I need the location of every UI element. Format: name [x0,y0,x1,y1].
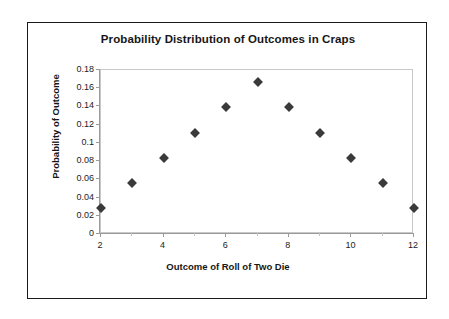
x-tick-label: 8 [273,240,303,250]
data-point-marker [253,77,263,87]
data-point-marker [409,204,419,214]
y-tick-label: 0.18 [50,64,94,74]
x-minor-tick-mark [319,233,320,236]
data-point-marker [159,153,169,163]
x-tick-mark [163,233,164,237]
x-minor-tick-mark [131,233,132,236]
data-point-marker [315,128,325,138]
y-tick-label: 0.04 [50,192,94,202]
x-tick-label: 6 [210,240,240,250]
data-point-marker [284,102,294,112]
data-point-marker [127,178,137,188]
y-tick-label: 0.08 [50,155,94,165]
chart-title: Probability Distribution of Outcomes in … [28,33,428,45]
x-tick-label: 2 [85,240,115,250]
x-tick-mark [225,233,226,237]
x-axis-title: Outcome of Roll of Two Die [28,261,428,272]
x-minor-tick-mark [257,233,258,236]
y-tick-label: 0.12 [50,119,94,129]
x-minor-tick-mark [382,233,383,236]
x-tick-label: 4 [148,240,178,250]
x-tick-label: 10 [335,240,365,250]
x-tick-mark [413,233,414,237]
chart-outer-frame: Probability Distribution of Outcomes in … [27,22,427,299]
y-tick-label: 0.1 [50,137,94,147]
data-point-marker [96,204,106,214]
y-tick-label: 0.02 [50,210,94,220]
x-tick-mark [350,233,351,237]
y-tick-label: 0.06 [50,173,94,183]
data-point-marker [346,153,356,163]
data-point-marker [190,128,200,138]
x-tick-mark [100,233,101,237]
data-point-marker [378,178,388,188]
y-tick-label: 0.14 [50,100,94,110]
x-minor-tick-mark [194,233,195,236]
chart-figure: Probability Distribution of Outcomes in … [0,0,449,319]
x-tick-mark [288,233,289,237]
y-tick-label: 0.16 [50,82,94,92]
x-tick-label: 12 [398,240,428,250]
plot-area [100,69,413,233]
data-point-marker [221,102,231,112]
y-tick-label: 0 [50,228,94,238]
